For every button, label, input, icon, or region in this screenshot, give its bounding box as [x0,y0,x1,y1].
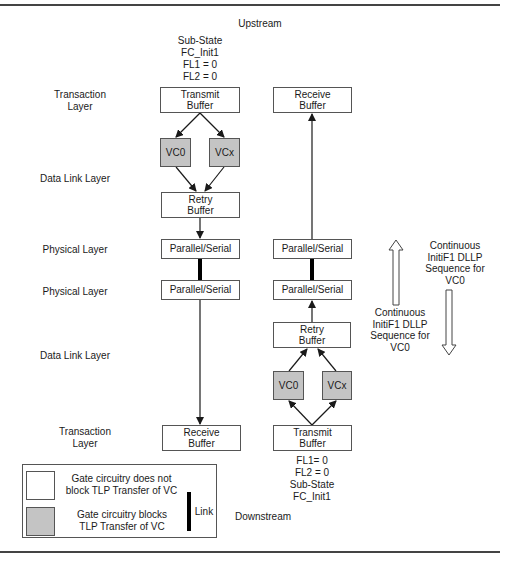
upstream-state-line4: FL2 = 0 [160,71,240,83]
upstream-state-line2: FC_Init1 [160,47,240,59]
upstream-state-line1: Sub-State [160,35,240,47]
downstream-state-line2: FL2 = 0 [272,467,352,479]
legend-link-text: Link [191,506,217,518]
downstream-label: Downstream [228,511,298,523]
right-transmit-buffer: Transmit Buffer [273,425,352,451]
downstream-state-line3: Sub-State [272,479,352,491]
right-vcx-gate: VCx [322,371,352,400]
right-vc0-gate: VC0 [273,371,304,400]
left-vcx-gate: VCx [209,138,240,167]
layer-label-transaction-bottom: Transaction Layer [45,426,125,449]
left-retry-buffer: Retry Buffer [161,192,240,218]
layer-label-transaction-top: Transaction Layer [40,89,120,112]
legend: Gate circuitry does not block TLP Transf… [22,464,217,538]
left-receive-buffer: Receive Buffer [162,425,241,451]
downstream-state-line1: FL1= 0 [272,455,352,467]
layer-label-data-link-bottom: Data Link Layer [30,350,120,362]
upstream-label: Upstream [210,18,310,30]
left-transmit-buffer: Transmit Buffer [160,87,240,113]
right-parallel-serial-top: Parallel/Serial [273,239,352,259]
left-vc0-gate: VC0 [160,138,191,167]
layer-label-physical-bottom: Physical Layer [35,286,115,298]
hollow-down-arrow-icon [442,290,456,355]
layer-label-data-link-top: Data Link Layer [30,173,120,185]
upstream-state-line3: FL1 = 0 [160,59,240,71]
right-parallel-serial-bottom: Parallel/Serial [273,280,352,300]
legend-blocked-text: Gate circuitry blocks TLP Transfer of VC [63,509,181,532]
right-receive-buffer: Receive Buffer [273,87,352,113]
left-parallel-serial-bottom: Parallel/Serial [161,280,240,300]
right-retry-buffer: Retry Buffer [273,322,351,348]
legend-open-swatch [26,471,55,500]
layer-label-physical-top: Physical Layer [35,244,115,256]
downstream-state-line4: FC_Init1 [272,491,352,503]
legend-open-text: Gate circuitry does not block TLP Transf… [59,473,184,496]
hollow-up-arrow-icon [389,240,403,305]
dllp-sequence-upstream-text: Continuous InitiF1 DLLP Sequence for VC0 [415,240,495,286]
legend-blocked-swatch [26,507,55,536]
left-parallel-serial-top: Parallel/Serial [161,239,240,259]
dllp-sequence-downstream-text: Continuous InitiF1 DLLP Sequence for VC0 [360,307,440,353]
